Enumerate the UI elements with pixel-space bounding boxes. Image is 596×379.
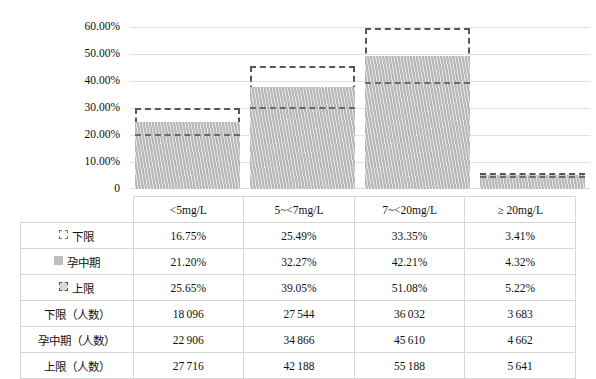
dashed-square-icon [59, 230, 68, 239]
y-tick-label-30: 30.00% [85, 102, 120, 114]
y-tick-label-10: 10.00% [85, 156, 120, 168]
table-header-1: 5~<7mg/L [244, 197, 355, 223]
table-cell-r1-c2: 42.21% [354, 249, 465, 275]
table-cell-r4-c1: 34 866 [244, 327, 355, 353]
y-tick-label-0: 0 [114, 183, 120, 195]
table-cell-r5-c2: 55 188 [354, 353, 465, 379]
table-cell-r1-c0: 21.20% [133, 249, 244, 275]
table-body: 下限16.75%25.49%33.35%3.41%孕中期21.20%32.27%… [21, 223, 576, 379]
bar-group-2 [365, 0, 470, 189]
table-cell-r0-c3: 3.41% [465, 223, 576, 249]
table-cell-r0-c0: 16.75% [133, 223, 244, 249]
table-cell-r3-c2: 36 032 [354, 301, 465, 327]
row-label-3: 下限（人数） [21, 301, 134, 327]
bar-lower-limit-3 [480, 176, 585, 178]
row-label-5: 上限（人数） [21, 353, 134, 379]
table-cell-r3-c0: 18 096 [133, 301, 244, 327]
table-row: 孕中期（人数）22 90634 86645 6104 662 [21, 327, 576, 353]
row-label-text-0: 下限 [72, 231, 94, 243]
bar-group-3 [480, 0, 585, 189]
table-cell-r5-c1: 42 188 [244, 353, 355, 379]
table-row: 下限（人数）18 09627 54436 0323 683 [21, 301, 576, 327]
bar-lower-limit-2 [365, 82, 470, 84]
table-cell-r4-c0: 22 906 [133, 327, 244, 353]
bar-middle-value-0 [135, 122, 240, 189]
bar-lower-limit-1 [250, 107, 355, 109]
table-cell-r5-c3: 5 641 [465, 353, 576, 379]
table-header-row: <5mg/L 5~<7mg/L 7~<20mg/L ≥ 20mg/L [21, 197, 576, 223]
data-table: <5mg/L 5~<7mg/L 7~<20mg/L ≥ 20mg/L 下限16.… [20, 196, 576, 379]
dashed-filled-square-icon [59, 282, 68, 291]
y-tick-label-50: 50.00% [85, 48, 120, 60]
table-cell-r0-c1: 25.49% [244, 223, 355, 249]
solid-gray-square-icon [54, 256, 63, 265]
table-cell-r2-c3: 5.22% [465, 275, 576, 301]
row-label-text-4: 孕中期（人数） [38, 335, 115, 347]
table-cell-r2-c1: 39.05% [244, 275, 355, 301]
table-row: 上限25.65%39.05%51.08%5.22% [21, 275, 576, 301]
row-label-4: 孕中期（人数） [21, 327, 134, 353]
table-cell-r5-c0: 27 716 [133, 353, 244, 379]
bar-middle-value-2 [365, 56, 470, 189]
bar-lower-limit-0 [135, 134, 240, 136]
table-cell-r4-c3: 4 662 [465, 327, 576, 353]
table-cell-r2-c0: 25.65% [133, 275, 244, 301]
table-header-3: ≥ 20mg/L [465, 197, 576, 223]
table-header-0: <5mg/L [133, 197, 244, 223]
y-tick-label-20: 20.00% [85, 129, 120, 141]
table-cell-r3-c3: 3 683 [465, 301, 576, 327]
row-label-text-2: 上限 [72, 283, 94, 295]
row-label-0: 下限 [21, 223, 134, 249]
table-row: 孕中期21.20%32.27%42.21%4.32% [21, 249, 576, 275]
y-axis: 60.00% 50.00% 40.00% 30.00% 20.00% 10.00… [0, 0, 128, 196]
table-corner-cell [21, 197, 134, 223]
table-cell-r4-c2: 45 610 [354, 327, 465, 353]
bar-group-1 [250, 0, 355, 189]
row-label-2: 上限 [21, 275, 134, 301]
bars-layer [130, 0, 590, 189]
table-cell-r1-c3: 4.32% [465, 249, 576, 275]
y-tick-label-60: 60.00% [85, 21, 120, 33]
table-row: 上限（人数）27 71642 18855 1885 641 [21, 353, 576, 379]
table-row: 下限16.75%25.49%33.35%3.41% [21, 223, 576, 249]
row-label-1: 孕中期 [21, 249, 134, 275]
bar-group-0 [135, 0, 240, 189]
table-cell-r3-c1: 27 544 [244, 301, 355, 327]
row-label-text-1: 孕中期 [67, 257, 100, 269]
bar-middle-value-1 [250, 87, 355, 189]
row-label-text-5: 上限（人数） [44, 361, 110, 373]
table-cell-r1-c1: 32.27% [244, 249, 355, 275]
chart-region: 60.00% 50.00% 40.00% 30.00% 20.00% 10.00… [0, 0, 596, 196]
row-label-text-3: 下限（人数） [44, 309, 110, 321]
table-cell-r2-c2: 51.08% [354, 275, 465, 301]
plot-area [130, 0, 590, 189]
table-header-2: 7~<20mg/L [354, 197, 465, 223]
y-tick-label-40: 40.00% [85, 75, 120, 87]
table-cell-r0-c2: 33.35% [354, 223, 465, 249]
